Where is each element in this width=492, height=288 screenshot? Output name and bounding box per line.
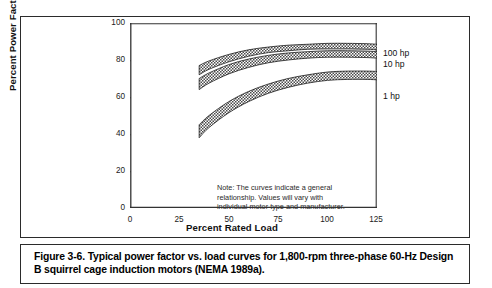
figure-panel: Percent Power Factor 100 80 60 40 20 0 0… <box>20 16 470 238</box>
power-factor-plot <box>130 23 377 208</box>
x-axis-title: Percent Rated Load <box>186 222 278 233</box>
series-label-1hp: 1 hp <box>383 92 400 101</box>
y-tick-label-100: 100 <box>103 19 125 27</box>
x-tick-label-125: 125 <box>363 216 389 224</box>
figure-caption-panel: Figure 3-6. Typical power factor vs. loa… <box>20 244 470 284</box>
y-tick-label-60: 60 <box>103 93 125 101</box>
y-tick-label-0: 0 <box>103 204 125 212</box>
y-tick-label-40: 40 <box>103 130 125 138</box>
y-axis-title: Percent Power Factor <box>7 0 18 91</box>
y-tick-label-80: 80 <box>103 56 125 64</box>
x-tick-label-0: 0 <box>117 216 143 224</box>
figure-caption: Figure 3-6. Typical power factor vs. loa… <box>34 250 458 277</box>
series-label-100hp: 100 hp <box>383 49 409 58</box>
y-tick-label-20: 20 <box>103 167 125 175</box>
plot-area <box>130 23 377 208</box>
series-band-1hp <box>199 71 377 138</box>
series-label-10hp: 10 hp <box>383 60 405 69</box>
x-tick-label-100: 100 <box>314 216 340 224</box>
